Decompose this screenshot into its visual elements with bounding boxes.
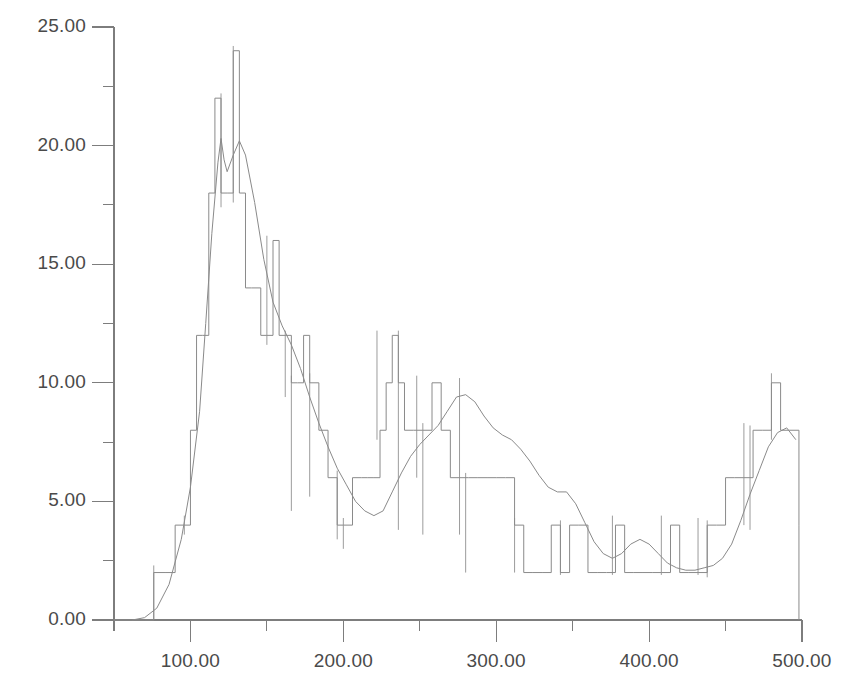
- x-tick-label: 400.00: [589, 650, 709, 672]
- series-layer: [114, 46, 799, 620]
- x-tick-label: 100.00: [130, 650, 250, 672]
- chart-container: 0.005.0010.0015.0020.0025.00 100.00200.0…: [0, 0, 844, 696]
- y-tick-label: 0.00: [48, 608, 86, 630]
- y-tick-label: 25.00: [37, 15, 86, 37]
- axis-layer: [92, 27, 802, 642]
- plot-area: [0, 0, 844, 696]
- x-tick-label: 200.00: [283, 650, 403, 672]
- y-tick-label: 15.00: [37, 252, 86, 274]
- smoothed-curve: [132, 138, 796, 620]
- step-histogram: [114, 51, 799, 620]
- x-tick-label: 300.00: [436, 650, 556, 672]
- y-tick-label: 10.00: [37, 371, 86, 393]
- y-tick-label: 5.00: [48, 489, 86, 511]
- y-tick-label: 20.00: [37, 134, 86, 156]
- x-tick-label: 500.00: [742, 650, 844, 672]
